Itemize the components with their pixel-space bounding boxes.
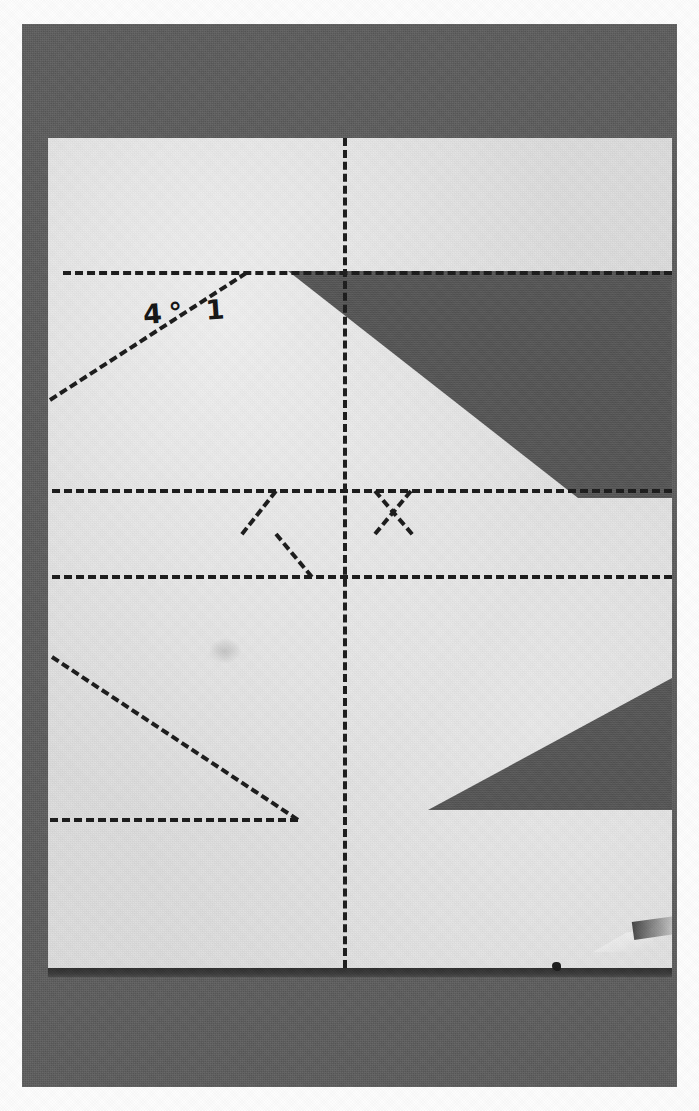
horizontal-crease-lower bbox=[50, 818, 298, 822]
horizontal-crease-upper bbox=[63, 271, 672, 275]
paper-sheet: 4° 1 bbox=[48, 138, 672, 976]
cutout-upper-band bbox=[48, 268, 672, 568]
horizontal-crease-middle-lower bbox=[52, 575, 672, 579]
dark-speck bbox=[552, 962, 561, 971]
cutout-lower-wedge bbox=[48, 658, 672, 976]
handwritten-label: 4° 1 bbox=[142, 293, 232, 330]
diagonal-crease-lower-left bbox=[51, 655, 299, 821]
bowtie-left-lower-segment bbox=[274, 533, 313, 579]
sheet-bottom-edge-shadow bbox=[48, 968, 672, 977]
paper-smudge bbox=[208, 638, 242, 664]
horizontal-crease-middle-upper bbox=[52, 489, 672, 493]
diagonal-crease-upper-left bbox=[49, 271, 247, 401]
crease-streak bbox=[632, 910, 672, 940]
photograph: 4° 1 bbox=[0, 0, 699, 1111]
bowtie-left-upper-segment bbox=[240, 490, 277, 536]
vertical-center-crease bbox=[343, 138, 347, 968]
